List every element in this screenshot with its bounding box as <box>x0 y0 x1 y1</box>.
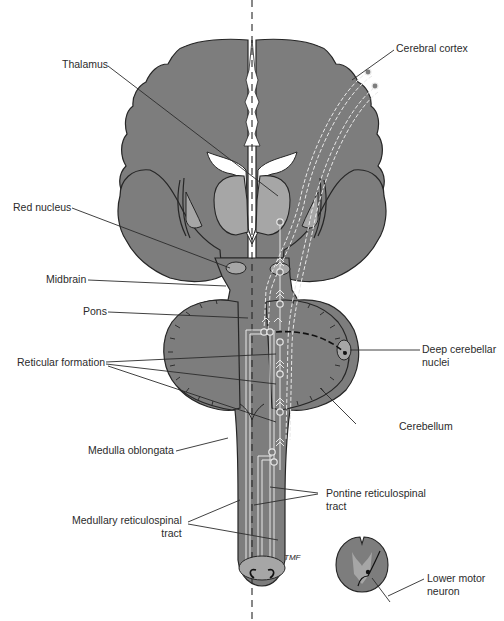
label-midbrain: Midbrain <box>46 273 86 286</box>
label-lower-motor-neuron: Lower motor neuron <box>427 572 485 598</box>
label-pontine-reticulospinal-tract: Pontine reticulospinal tract <box>326 487 426 513</box>
cord-section-top <box>239 556 285 580</box>
diagram-canvas: TMF Thalamus Cerebral cortex Red nucleus… <box>0 0 504 621</box>
label-cerebellum: Cerebellum <box>399 420 453 433</box>
leader-medullary-1 <box>188 500 240 522</box>
label-deep-cerebellar-nuclei: Deep cerebellar nuclei <box>422 343 496 369</box>
label-red-nucleus: Red nucleus <box>13 201 71 214</box>
label-thalamus: Thalamus <box>62 58 108 71</box>
leader-medulla <box>176 438 228 451</box>
spinal-cord-section <box>336 537 388 592</box>
label-medullary-reticulospinal-tract: Medullary reticulospinal tract <box>72 514 182 540</box>
left-cerebellum <box>164 300 240 410</box>
leader-cerebral-cortex <box>352 50 394 80</box>
leader-lower-motor-neuron <box>388 579 424 596</box>
artist-initials: TMF <box>284 553 302 562</box>
label-reticular-formation: Reticular formation <box>17 356 105 369</box>
label-cerebral-cortex: Cerebral cortex <box>396 42 468 55</box>
label-medulla-oblongata: Medulla oblongata <box>88 444 174 457</box>
deep-cerebellar-nucleus <box>337 340 351 360</box>
cortical-neurons <box>365 69 378 89</box>
label-pons: Pons <box>83 305 107 318</box>
